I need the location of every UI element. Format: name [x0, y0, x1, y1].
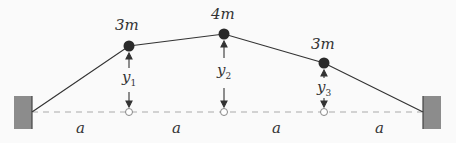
- y2-label: y2: [217, 63, 231, 81]
- y3-label: y3: [317, 80, 331, 98]
- equilibrium-point-3: [321, 109, 328, 116]
- y1-label: y1: [122, 70, 136, 88]
- spacing-label-1: a: [76, 121, 85, 136]
- equilibrium-point-2: [221, 109, 228, 116]
- mass-3: [319, 58, 330, 69]
- mass-2: [219, 29, 230, 40]
- left-wall: [14, 96, 32, 129]
- mass-1-label: 3m: [115, 18, 139, 33]
- equilibrium-point-1: [126, 109, 133, 116]
- spacing-label-3: a: [272, 121, 281, 136]
- right-wall: [423, 96, 441, 129]
- diagram-canvas: 3m 4m 3m y1 y2 y3 a a a a: [0, 0, 456, 143]
- mass-2-label: 4m: [211, 7, 235, 22]
- spacing-label-4: a: [375, 121, 384, 136]
- mass-1: [124, 41, 135, 52]
- spacing-label-2: a: [172, 121, 181, 136]
- mass-3-label: 3m: [311, 37, 335, 52]
